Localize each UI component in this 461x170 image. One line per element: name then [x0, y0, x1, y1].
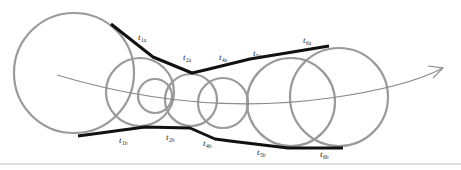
circle-c2	[106, 58, 174, 126]
tangent-label-5a: t5a	[253, 48, 262, 59]
circle-envelope-diagram: t1at2at4at5at6at1bt2bt4bt5bt6b	[0, 0, 461, 170]
tangent-label-subscript: 6b	[323, 154, 329, 160]
circles-group	[14, 13, 388, 146]
tangent-label-subscript: 2a	[186, 57, 192, 63]
tangent-label-6b: t6b	[320, 149, 329, 160]
tangent-label-1a: t1a	[138, 32, 147, 43]
tangent-label-subscript: 4b	[206, 143, 212, 149]
tangent-label-6a: t6a	[303, 35, 312, 46]
tangent-label-4a: t4a	[219, 52, 228, 63]
upper-tangent-envelope	[111, 24, 329, 73]
tangent-label-2a: t2a	[183, 52, 192, 63]
tangent-label-subscript: 4a	[222, 57, 228, 63]
tangent-label-subscript: 5b	[260, 152, 266, 158]
tangent-label-subscript: 2b	[169, 137, 175, 143]
tangent-label-4b: t4b	[203, 138, 212, 149]
tangent-label-2b: t2b	[166, 132, 175, 143]
tangent-label-1b: t1b	[119, 135, 128, 146]
tangent-label-subscript: 1b	[122, 140, 128, 146]
tangent-label-subscript: 6a	[306, 40, 312, 46]
tangent-label-subscript: 1a	[141, 37, 147, 43]
tangent-label-subscript: 5a	[256, 53, 262, 59]
tangent-label-5b: t5b	[257, 147, 266, 158]
